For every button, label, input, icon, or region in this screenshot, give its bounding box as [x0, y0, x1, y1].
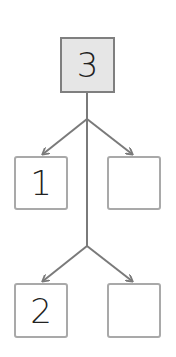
- arrow-to-level1-left: [43, 119, 87, 154]
- arrow-to-level2-left: [43, 246, 87, 281]
- root-value: 3: [77, 48, 99, 82]
- arrow-to-level2-right: [87, 246, 132, 281]
- level1-left-box[interactable]: 1: [14, 156, 68, 210]
- level2-left-box[interactable]: 2: [14, 283, 68, 338]
- level2-left-value: 2: [30, 294, 52, 328]
- level1-left-value: 1: [30, 166, 52, 200]
- arrow-to-level1-right: [87, 119, 132, 154]
- level2-right-box[interactable]: [107, 283, 161, 338]
- root-box: 3: [60, 37, 115, 93]
- level1-right-box[interactable]: [107, 156, 161, 210]
